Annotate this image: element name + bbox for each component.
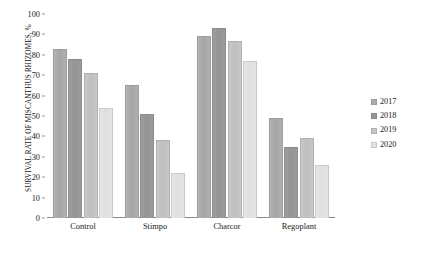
y-tick-mark	[42, 177, 45, 178]
legend-swatch-icon	[371, 99, 377, 105]
y-tick-label: 30	[32, 152, 40, 161]
plot-area	[47, 14, 335, 218]
y-tick-mark	[42, 14, 45, 15]
bar-stimpo-2019	[156, 140, 170, 218]
y-tick-label: 100	[28, 10, 40, 19]
legend-item-2019[interactable]: 2019	[371, 126, 396, 134]
legend-swatch-icon	[371, 113, 377, 119]
bar-group	[125, 14, 186, 218]
legend-label: 2017	[380, 98, 396, 106]
legend: 2017201820192020	[371, 98, 396, 149]
bar-regoplant-2018	[284, 147, 298, 218]
x-axis-category-labels: ControlStimpoCharcorRegoplant	[47, 222, 335, 231]
y-tick-mark	[42, 218, 45, 219]
category-label-stimpo: Stimpo	[119, 222, 191, 231]
y-tick-label: 70	[32, 71, 40, 80]
bar-control-2017	[53, 49, 67, 218]
bar-charcor-2020	[243, 61, 257, 218]
y-axis-ticks: 0102030405060708090100	[0, 14, 45, 218]
y-tick-mark	[42, 136, 45, 137]
bar-regoplant-2019	[300, 138, 314, 218]
bar-group	[53, 14, 114, 218]
y-tick-label: 80	[32, 50, 40, 59]
bar-charcor-2018	[212, 28, 226, 218]
y-tick-label: 10	[32, 193, 40, 202]
y-tick-mark	[42, 116, 45, 117]
y-tick-mark	[42, 54, 45, 55]
bar-charcor-2019	[228, 41, 242, 218]
bar-group	[269, 14, 330, 218]
legend-label: 2020	[380, 141, 396, 149]
y-tick-mark	[42, 95, 45, 96]
category-label-regoplant: Regoplant	[263, 222, 335, 231]
bar-control-2020	[99, 108, 113, 218]
bar-stimpo-2018	[140, 114, 154, 218]
y-tick-mark	[42, 156, 45, 157]
bar-regoplant-2017	[269, 118, 283, 218]
legend-swatch-icon	[371, 142, 377, 148]
bar-stimpo-2017	[125, 85, 139, 218]
y-tick-label: 60	[32, 91, 40, 100]
legend-item-2017[interactable]: 2017	[371, 98, 396, 106]
category-label-control: Control	[47, 222, 119, 231]
y-tick-label: 90	[32, 30, 40, 39]
bar-groups	[47, 14, 335, 218]
bar-stimpo-2020	[171, 173, 185, 218]
legend-swatch-icon	[371, 128, 377, 134]
bar-control-2018	[68, 59, 82, 218]
y-tick-label: 20	[32, 173, 40, 182]
y-tick-label: 40	[32, 132, 40, 141]
y-tick-mark	[42, 75, 45, 76]
survival-rate-bar-chart: SURVIVAL RATE OF MISCANTHUS RHIZOMES, % …	[0, 0, 425, 258]
legend-item-2018[interactable]: 2018	[371, 112, 396, 120]
y-tick-mark	[42, 197, 45, 198]
legend-item-2020[interactable]: 2020	[371, 141, 396, 149]
bar-group	[197, 14, 258, 218]
bar-charcor-2017	[197, 36, 211, 218]
y-tick-label: 50	[32, 112, 40, 121]
bar-control-2019	[84, 73, 98, 218]
legend-label: 2019	[380, 126, 396, 134]
y-tick-mark	[42, 34, 45, 35]
legend-label: 2018	[380, 112, 396, 120]
category-label-charcor: Charcor	[191, 222, 263, 231]
y-tick-label: 0	[36, 214, 40, 223]
bar-regoplant-2020	[315, 165, 329, 218]
